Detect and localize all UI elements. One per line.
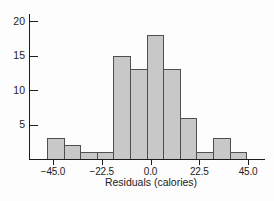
x-axis-tick [248,160,249,165]
residuals-histogram-figure: Residuals (calories) 5101520−45.0−22.50.… [0,0,274,201]
x-axis-tick [151,160,152,165]
x-axis-tick [199,160,200,165]
y-axis-tick [30,21,39,22]
x-axis-line [29,159,266,160]
y-axis-line [29,14,30,160]
x-tick-label: −22.5 [80,166,124,178]
x-tick-label: 0.0 [129,166,173,178]
histogram-bar [130,69,148,160]
histogram-bar [113,56,131,161]
x-tick-label: −45.0 [31,166,75,178]
histogram-bar [213,138,231,160]
x-tick-label: 22.5 [177,166,221,178]
y-tick-label: 10 [0,84,25,97]
x-axis-tick [53,160,54,165]
histogram-bar [147,35,165,160]
y-axis-tick [30,125,39,126]
y-tick-label: 5 [0,118,25,131]
y-tick-label: 20 [0,15,25,28]
x-tick-label: 45.0 [226,166,270,178]
histogram-bar [64,145,82,160]
y-axis-tick [30,56,39,57]
histogram-bar [180,118,198,160]
x-axis-title: Residuals (calories) [61,176,241,189]
x-axis-tick [102,160,103,165]
histogram-bar [47,138,65,160]
y-axis-tick [30,90,39,91]
histogram-bar [163,69,181,160]
y-tick-label: 15 [0,49,25,62]
